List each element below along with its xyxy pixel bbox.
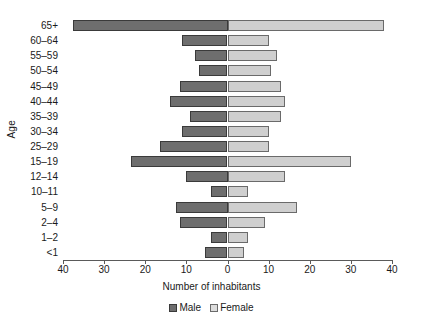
bar-female (228, 141, 269, 152)
legend-label-male: Male (179, 302, 201, 313)
bar-male (182, 35, 227, 46)
pyramid-row (63, 50, 392, 61)
bar-male (131, 156, 228, 167)
bar-male (176, 202, 227, 213)
y-axis-tick-label: 15–19 (30, 157, 58, 167)
bar-female (228, 50, 277, 61)
bar-female (228, 202, 298, 213)
y-axis-tick-label: 25–29 (30, 142, 58, 152)
bar-male (205, 247, 228, 258)
bar-female (228, 232, 249, 243)
bar-female (228, 186, 249, 197)
pyramid-row (63, 96, 392, 107)
y-axis-tick-label: 45–49 (30, 82, 58, 92)
x-axis-tick-label: 40 (48, 265, 78, 275)
bar-female (228, 96, 286, 107)
legend-swatch-female-icon (210, 304, 218, 312)
x-axis-tick-label: 30 (89, 265, 119, 275)
y-axis-tick-labels: 65+60–6455–5950–5445–4940–4435–3930–3425… (18, 18, 58, 260)
bar-male (160, 141, 228, 152)
population-pyramid-chart: Age 65+60–6455–5950–5445–4940–4435–3930–… (0, 0, 423, 330)
bar-female (228, 35, 269, 46)
bar-female (228, 156, 351, 167)
bar-female (228, 247, 244, 258)
legend-swatch-male-icon (169, 304, 177, 312)
y-axis-tick-label: 5–9 (41, 203, 58, 213)
y-axis-tick-label: 10–11 (31, 187, 58, 197)
x-axis-tick-label: 10 (254, 265, 284, 275)
pyramid-row (63, 35, 392, 46)
bar-male (211, 232, 227, 243)
y-axis-title: Age (6, 125, 17, 139)
pyramid-row (63, 171, 392, 182)
pyramid-row (63, 156, 392, 167)
legend-item-male: Male (169, 302, 201, 313)
pyramid-row (63, 65, 392, 76)
bar-male (190, 111, 227, 122)
bar-female (228, 126, 269, 137)
bar-female (228, 81, 281, 92)
bar-male (182, 126, 227, 137)
bar-female (228, 217, 265, 228)
x-axis-tick-label: 40 (377, 265, 407, 275)
x-axis-tick-label: 0 (213, 265, 243, 275)
bar-male (211, 186, 227, 197)
pyramid-row (63, 186, 392, 197)
bar-male (199, 65, 228, 76)
y-axis-tick-label: 50–54 (30, 66, 58, 76)
x-axis-tick-label: 20 (130, 265, 160, 275)
bar-female (228, 65, 271, 76)
pyramid-row (63, 141, 392, 152)
y-axis-tick-label: 60–64 (30, 36, 58, 46)
pyramid-row (63, 247, 392, 258)
pyramid-row (63, 232, 392, 243)
chart-legend: Male Female (0, 302, 423, 313)
y-axis-tick-label: 2–4 (41, 218, 58, 228)
bar-male (195, 50, 228, 61)
x-axis-tick-label: 20 (295, 265, 325, 275)
y-axis-tick-label: 12–14 (30, 172, 58, 182)
bar-male (180, 217, 227, 228)
legend-label-female: Female (220, 302, 253, 313)
y-axis-tick-label: 1–2 (41, 233, 58, 243)
pyramid-row (63, 202, 392, 213)
y-axis-tick-label: 40–44 (30, 97, 58, 107)
y-axis-tick-label: <1 (47, 248, 58, 258)
pyramid-row (63, 126, 392, 137)
y-axis-tick-label: 55–59 (30, 51, 58, 61)
plot-area (63, 18, 392, 260)
bar-male (180, 81, 227, 92)
pyramid-row (63, 20, 392, 31)
x-axis-tick-label: 30 (336, 265, 366, 275)
bar-male (73, 20, 227, 31)
bar-male (186, 171, 227, 182)
bar-female (228, 111, 281, 122)
bar-female (228, 20, 384, 31)
x-axis-title: Number of inhabitants (0, 281, 423, 292)
y-axis-tick-label: 30–34 (30, 127, 58, 137)
y-axis-tick-label: 35–39 (30, 112, 58, 122)
legend-item-female: Female (210, 302, 253, 313)
pyramid-row (63, 217, 392, 228)
pyramid-row (63, 111, 392, 122)
pyramid-row (63, 81, 392, 92)
x-axis-tick-label: 10 (171, 265, 201, 275)
bar-female (228, 171, 286, 182)
y-axis-tick-label: 65+ (41, 21, 58, 31)
bar-male (170, 96, 228, 107)
